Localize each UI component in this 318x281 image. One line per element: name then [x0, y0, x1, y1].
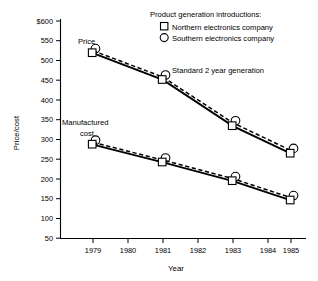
annotation-standard-generation: Standard 2 year generation	[172, 66, 264, 75]
marker-square-northern	[286, 196, 294, 204]
x-tick-label: 1983	[225, 246, 241, 255]
y-axis-title: Price/cost	[12, 115, 21, 150]
legend-label-northern: Northern electronics company	[172, 23, 273, 32]
marker-square-northern	[228, 122, 236, 130]
marker-square-northern	[158, 76, 166, 84]
y-axis-ticks: $600 550 500 450 400 350 300 250 200 150…	[37, 17, 61, 243]
legend-label-southern: Southern electronics company	[172, 34, 274, 43]
y-tick-label: 200	[41, 175, 53, 184]
legend-entry-northern[interactable]: Northern electronics company	[161, 23, 274, 32]
y-tick-label: 50	[45, 234, 53, 243]
y-tick-label: 250	[41, 155, 53, 164]
x-tick-label: 1981	[155, 246, 171, 255]
x-tick-label: 1984	[260, 246, 276, 255]
x-axis-ticks: 1979 1980 1981 1982 1983 1984 1985	[85, 239, 299, 256]
x-axis-title: Year	[168, 264, 184, 273]
legend-title: Product generation introductions:	[150, 10, 261, 19]
x-tick-label: 1980	[120, 246, 136, 255]
cost-northern-line	[93, 145, 291, 201]
marker-square-northern	[88, 140, 96, 148]
x-tick-label: 1979	[85, 246, 101, 255]
y-tick-label: 400	[41, 96, 53, 105]
price-cost-line-chart: $600 550 500 450 400 350 300 250 200 150…	[0, 0, 318, 281]
marker-square-northern	[286, 149, 294, 157]
y-tick-label: 150	[41, 194, 53, 203]
legend-square-icon	[161, 23, 168, 30]
legend-circle-icon	[160, 34, 168, 42]
y-tick-label: 500	[41, 56, 53, 65]
x-tick-label: 1982	[190, 246, 206, 255]
y-tick-label: 550	[41, 36, 53, 45]
y-tick-label: 100	[41, 214, 53, 223]
x-tick-label: 1985	[283, 246, 299, 255]
series-cost-northern-solid	[93, 145, 291, 201]
marker-square-northern	[88, 49, 96, 57]
marker-square-northern	[158, 158, 166, 166]
y-tick-label: 350	[41, 115, 53, 124]
chart-container: $600 550 500 450 400 350 300 250 200 150…	[0, 0, 318, 281]
y-tick-label: 450	[41, 76, 53, 85]
legend: Product generation introductions: Northe…	[150, 10, 274, 43]
y-tick-label: 300	[41, 135, 53, 144]
legend-entry-southern[interactable]: Southern electronics company	[160, 34, 274, 43]
annotation-manufactured-cost-line1: Manufactured	[62, 118, 108, 127]
y-tick-label: $600	[37, 17, 53, 26]
marker-square-northern	[228, 177, 236, 185]
annotation-manufactured-cost-line2: cost	[80, 129, 95, 138]
annotation-price: Price	[78, 37, 95, 46]
